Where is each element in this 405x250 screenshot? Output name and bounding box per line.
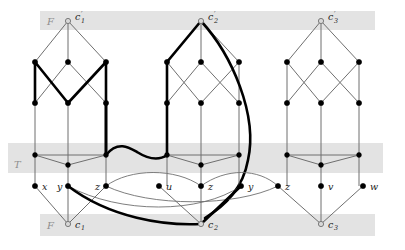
node-var-v[interactable]	[318, 183, 323, 188]
node-g2-lower-left[interactable]	[164, 100, 169, 105]
label-var-v: v	[328, 181, 334, 192]
band-t-middle	[8, 143, 383, 173]
node-g1-lower-mid[interactable]	[65, 100, 70, 105]
label-c2-sub: 2	[213, 224, 218, 232]
node-var-y-1[interactable]	[65, 183, 70, 188]
node-t2-mid[interactable]	[199, 163, 204, 168]
band-label-f-bottom: F	[46, 220, 55, 231]
node-g2-upper-right[interactable]	[236, 59, 241, 64]
node-g3-upper-mid[interactable]	[318, 59, 323, 64]
arc-y1-y2	[68, 186, 241, 207]
node-t1-left[interactable]	[33, 153, 38, 158]
node-var-u[interactable]	[156, 183, 161, 188]
background-bands	[8, 11, 383, 236]
node-var-z-1[interactable]	[103, 183, 108, 188]
label-var-z-1: z	[94, 181, 101, 192]
node-var-z-3[interactable]	[275, 183, 280, 188]
label-var-z-3: z	[284, 181, 291, 192]
node-g3-lower-left[interactable]	[284, 100, 289, 105]
band-label-f-top: F	[46, 16, 55, 27]
label-var-z-2: z	[207, 181, 214, 192]
node-t2-right[interactable]	[237, 153, 242, 158]
node-g3-upper-right[interactable]	[356, 59, 361, 64]
node-c1[interactable]	[65, 221, 70, 226]
variable-labels: x y z u z y z v w	[42, 181, 378, 192]
node-g2-upper-mid[interactable]	[198, 59, 203, 64]
node-t3-mid[interactable]	[319, 163, 324, 168]
label-var-y-1: y	[56, 181, 63, 192]
label-c2-prime-sub: 2	[213, 17, 218, 25]
node-c3-prime[interactable]	[318, 18, 323, 23]
node-var-z-2[interactable]	[198, 183, 203, 188]
node-var-y-2[interactable]	[238, 183, 243, 188]
node-g1-lower-left[interactable]	[32, 100, 37, 105]
node-g2-lower-mid[interactable]	[198, 100, 203, 105]
label-var-w: w	[370, 181, 378, 192]
node-g3-upper-left[interactable]	[284, 59, 289, 64]
node-t1-right[interactable]	[104, 153, 109, 158]
label-c3-sub: 3	[334, 224, 338, 232]
node-t3-left[interactable]	[285, 153, 290, 158]
variable-row-nodes	[32, 183, 365, 188]
node-t3-right[interactable]	[357, 153, 362, 158]
node-var-w[interactable]	[360, 183, 365, 188]
node-c2-prime[interactable]	[198, 18, 203, 23]
g1-bold-path	[35, 62, 106, 155]
node-g3-lower-right[interactable]	[356, 100, 361, 105]
label-var-u: u	[166, 181, 172, 192]
g2-bold-left	[167, 21, 201, 155]
label-var-x: x	[42, 181, 48, 192]
node-g1-upper-right[interactable]	[103, 59, 108, 64]
node-g2-lower-right[interactable]	[236, 100, 241, 105]
graph-diagram: F T F c 1 ′ c 2 ′ c 3 ′ c 1 c 2 c 3 x y …	[0, 0, 405, 250]
node-g3-lower-mid[interactable]	[318, 100, 323, 105]
node-g1-upper-mid[interactable]	[65, 59, 70, 64]
node-var-x[interactable]	[32, 183, 37, 188]
node-g2-upper-left[interactable]	[164, 59, 169, 64]
arc-z1-z2	[106, 173, 201, 187]
node-c3[interactable]	[318, 221, 323, 226]
label-c1-sub: 1	[81, 224, 85, 232]
node-c2[interactable]	[198, 221, 203, 226]
node-g1-upper-left[interactable]	[32, 59, 37, 64]
node-g1-lower-right[interactable]	[103, 100, 108, 105]
figure-canvas: F T F c 1 ′ c 2 ′ c 3 ′ c 1 c 2 c 3 x y …	[0, 0, 405, 250]
label-c1-prime-sub: 1	[81, 17, 85, 25]
node-c1-prime[interactable]	[65, 18, 70, 23]
node-t2-left[interactable]	[165, 153, 170, 158]
node-t1-mid[interactable]	[66, 163, 71, 168]
label-c3-prime-sub: 3	[334, 17, 338, 25]
label-var-y-2: y	[247, 181, 254, 192]
